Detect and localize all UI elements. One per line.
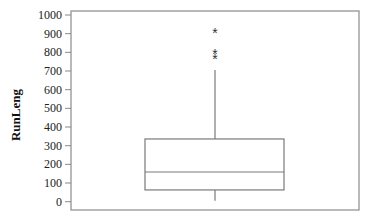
y-tick-label: 0: [56, 195, 62, 209]
y-tick-label: 500: [44, 101, 62, 115]
y-tick-label: 900: [44, 27, 62, 41]
y-tick-label: 600: [44, 83, 62, 97]
y-tick-label: 100: [44, 176, 62, 190]
boxplot-chart: 01002003004005006007008009001000 *** Run…: [0, 0, 366, 218]
y-tick-label: 800: [44, 45, 62, 59]
box-plot: ***: [145, 25, 284, 201]
y-axis-label: RunLeng: [8, 88, 23, 141]
y-tick-label: 400: [44, 120, 62, 134]
y-tick-label: 1000: [38, 8, 62, 22]
y-axis: 01002003004005006007008009001000: [38, 8, 71, 209]
y-tick-label: 700: [44, 64, 62, 78]
y-tick-label: 200: [44, 157, 62, 171]
iqr-box: [145, 139, 284, 190]
outlier-marker: *: [212, 25, 218, 41]
outlier-marker: *: [212, 51, 218, 67]
y-tick-label: 300: [44, 139, 62, 153]
